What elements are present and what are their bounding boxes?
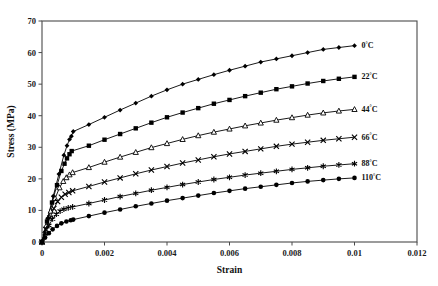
series-0C: 0°C	[40, 41, 374, 245]
marker-square	[62, 162, 66, 166]
marker-x	[86, 184, 91, 189]
marker-square	[149, 120, 153, 124]
y-tick-label: 40	[28, 111, 37, 121]
marker-square	[134, 126, 138, 130]
marker-circle	[47, 231, 52, 236]
x-tick-label: 0.002	[95, 248, 114, 258]
marker-diamond	[305, 50, 310, 55]
marker-diamond	[71, 129, 76, 134]
marker-square	[290, 84, 294, 88]
y-tick-label: 30	[28, 142, 37, 152]
marker-diamond	[321, 47, 326, 52]
marker-x	[102, 179, 107, 184]
marker-square	[59, 169, 63, 173]
series-label-88C: 88°C	[362, 159, 378, 169]
marker-square	[180, 110, 184, 114]
x-tick-label: 0.004	[157, 248, 177, 258]
marker-diamond	[196, 77, 201, 82]
marker-diamond	[243, 64, 248, 69]
marker-circle	[352, 176, 357, 181]
marker-diamond	[290, 53, 295, 58]
marker-circle	[258, 184, 263, 189]
marker-square	[165, 115, 169, 119]
marker-circle	[196, 193, 201, 198]
marker-diamond	[65, 143, 70, 148]
marker-diamond	[274, 56, 279, 61]
marker-diamond	[149, 94, 154, 99]
marker-diamond	[86, 122, 91, 127]
marker-square	[274, 87, 278, 91]
marker-diamond	[352, 43, 357, 48]
marker-square	[87, 144, 91, 148]
marker-circle	[87, 214, 92, 219]
chart-canvas: 01020304050607000.0020.0040.0060.0080.01…	[0, 0, 438, 286]
x-tick-label: 0.006	[220, 248, 239, 258]
marker-diamond	[180, 82, 185, 87]
series-label-22C: 22°C	[362, 72, 378, 82]
y-axis-title: Stress (MPa)	[6, 105, 17, 157]
marker-x	[59, 195, 64, 200]
marker-circle	[118, 207, 123, 212]
marker-square	[118, 132, 122, 136]
marker-square	[227, 98, 231, 102]
marker-square	[102, 138, 106, 142]
marker-diamond	[227, 68, 232, 73]
marker-triangle	[352, 107, 357, 112]
marker-diamond	[133, 101, 138, 106]
marker-circle	[165, 198, 170, 203]
y-tick-label: 70	[28, 16, 37, 26]
y-tick-label: 0	[32, 237, 36, 247]
marker-diamond	[102, 115, 107, 120]
series-110C: 110°C	[40, 173, 382, 244]
marker-square	[321, 79, 325, 83]
series-label-66C: 66°C	[362, 132, 378, 142]
marker-diamond	[258, 60, 263, 65]
series-label-0C: 0°C	[362, 41, 374, 51]
x-tick-label: 0	[40, 248, 44, 258]
x-tick-label: 0.012	[407, 248, 426, 258]
marker-circle	[305, 179, 310, 184]
series-line	[42, 137, 355, 242]
series-label-110C: 110°C	[362, 173, 382, 183]
marker-circle	[40, 240, 45, 245]
marker-diamond	[165, 87, 170, 92]
marker-x	[118, 175, 123, 180]
marker-circle	[337, 177, 342, 182]
marker-diamond	[118, 108, 123, 113]
marker-diamond	[211, 72, 216, 77]
marker-circle	[321, 178, 326, 183]
marker-circle	[59, 221, 64, 226]
marker-square	[196, 106, 200, 110]
series-label-44C: 44°C	[362, 104, 378, 114]
stress-strain-chart: 01020304050607000.0020.0040.0060.0080.01…	[0, 0, 438, 286]
x-tick-label: 0.008	[282, 248, 301, 258]
marker-circle	[180, 196, 185, 201]
marker-circle	[149, 201, 154, 206]
marker-circle	[64, 219, 69, 224]
series-line	[42, 109, 355, 242]
marker-circle	[243, 186, 248, 191]
y-tick-label: 50	[28, 79, 37, 89]
marker-circle	[102, 210, 107, 215]
marker-circle	[43, 235, 48, 240]
y-tick-label: 10	[28, 205, 37, 215]
y-tick-label: 20	[28, 174, 37, 184]
marker-circle	[133, 204, 138, 209]
marker-diamond	[336, 45, 341, 50]
marker-circle	[290, 181, 295, 186]
series-88C: 88°C	[39, 159, 377, 245]
marker-square	[259, 90, 263, 94]
marker-square	[69, 149, 73, 153]
marker-square	[243, 94, 247, 98]
marker-square	[337, 77, 341, 81]
marker-circle	[227, 189, 232, 194]
marker-circle	[212, 191, 217, 196]
x-tick-label: 0.01	[347, 248, 362, 258]
marker-circle	[274, 183, 279, 188]
marker-square	[352, 75, 356, 79]
marker-circle	[71, 217, 76, 222]
series-66C: 66°C	[39, 132, 377, 245]
marker-circle	[55, 224, 60, 229]
marker-square	[65, 156, 69, 160]
series-line	[42, 178, 355, 242]
